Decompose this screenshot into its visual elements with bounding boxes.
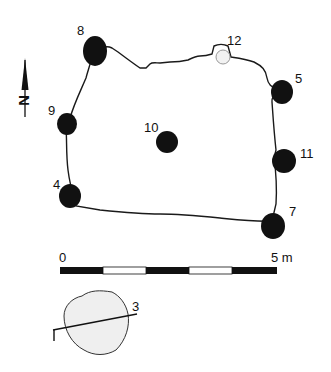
post-5-marker (271, 80, 293, 104)
post-7-label: 7 (289, 205, 296, 218)
post-12-label: 12 (227, 34, 241, 47)
scale-end-label: 5 m (271, 251, 293, 264)
post-8-label: 8 (77, 24, 84, 37)
post-7-marker (261, 213, 285, 239)
post-8-marker (83, 36, 107, 66)
scale-bar (60, 267, 277, 274)
post-12-marker (216, 50, 230, 64)
post-11-label: 11 (300, 147, 314, 160)
post-9-marker (57, 113, 77, 135)
north-arrow-icon (22, 58, 29, 117)
feature-3-section (53, 291, 137, 355)
feature-3-label: 3 (132, 300, 139, 313)
site-plan (0, 0, 331, 372)
post-4-marker (59, 184, 81, 208)
post-4-label: 4 (53, 178, 60, 191)
post-9-label: 9 (48, 104, 55, 117)
post-10-label: 10 (144, 121, 158, 134)
post-10-marker (156, 131, 178, 153)
post-5-label: 5 (295, 72, 302, 85)
scale-start-label: 0 (59, 251, 66, 264)
post-11-marker (272, 149, 296, 173)
north-label: N (17, 95, 32, 106)
